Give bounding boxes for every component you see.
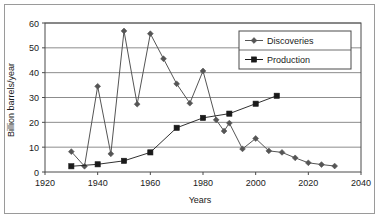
y-tick-label-50: 50 xyxy=(29,43,39,53)
datapoint-discoveries-2010 xyxy=(279,149,285,155)
y-axis-title: Billion barrels/year xyxy=(6,63,16,137)
datapoint-discoveries-1950 xyxy=(121,28,127,34)
legend-label-production: Production xyxy=(267,55,310,65)
datapoint-discoveries-1945 xyxy=(108,151,114,157)
datapoint-discoveries-1955 xyxy=(134,101,140,107)
x-tick-label-2000: 2000 xyxy=(246,178,266,188)
x-axis-tick-labels: 1920194019601980200020202040 xyxy=(35,178,371,188)
datapoint-discoveries-1970 xyxy=(174,81,180,87)
datapoint-production-1960 xyxy=(148,150,153,155)
datapoint-discoveries-2015 xyxy=(292,155,298,161)
x-tick-label-1920: 1920 xyxy=(35,178,55,188)
x-tick-label-2040: 2040 xyxy=(351,178,371,188)
y-tick-label-40: 40 xyxy=(29,68,39,78)
x-tick-label-2020: 2020 xyxy=(298,178,318,188)
oil-discoveries-production-chart: 0102030405060 19201940196019802000202020… xyxy=(0,0,382,222)
x-tick-label-1960: 1960 xyxy=(140,178,160,188)
datapoint-discoveries-2025 xyxy=(319,162,325,168)
datapoint-discoveries-1975 xyxy=(187,100,193,106)
datapoint-production-2008 xyxy=(274,93,279,98)
datapoint-discoveries-1990 xyxy=(226,120,232,126)
datapoint-production-1970 xyxy=(174,125,179,130)
x-tick-label-1940: 1940 xyxy=(88,178,108,188)
datapoint-production-1930 xyxy=(69,164,74,169)
y-tick-label-60: 60 xyxy=(29,19,39,29)
y-tick-label-20: 20 xyxy=(29,118,39,128)
legend-label-discoveries: Discoveries xyxy=(267,36,314,46)
y-tick-label-0: 0 xyxy=(34,168,39,178)
datapoint-production-1950 xyxy=(121,158,126,163)
datapoint-discoveries-1960 xyxy=(147,31,153,37)
datapoint-production-1940 xyxy=(95,162,100,167)
y-tick-label-10: 10 xyxy=(29,143,39,153)
chart-legend: DiscoveriesProduction xyxy=(239,31,351,69)
y-tick-label-30: 30 xyxy=(29,93,39,103)
legend-marker-production xyxy=(251,57,256,62)
datapoint-production-2000 xyxy=(253,101,258,106)
datapoint-production-1980 xyxy=(200,115,205,120)
x-tick-label-1980: 1980 xyxy=(193,178,213,188)
series-production xyxy=(69,93,280,169)
datapoint-production-1990 xyxy=(227,111,232,116)
datapoint-discoveries-2030 xyxy=(332,163,338,169)
x-axis-title: Years xyxy=(189,195,212,205)
series-line-production xyxy=(71,96,276,167)
datapoint-discoveries-1965 xyxy=(161,56,167,62)
datapoint-discoveries-2020 xyxy=(305,160,311,166)
y-axis-tick-labels: 0102030405060 xyxy=(29,19,39,178)
datapoint-discoveries-1940 xyxy=(95,83,101,89)
